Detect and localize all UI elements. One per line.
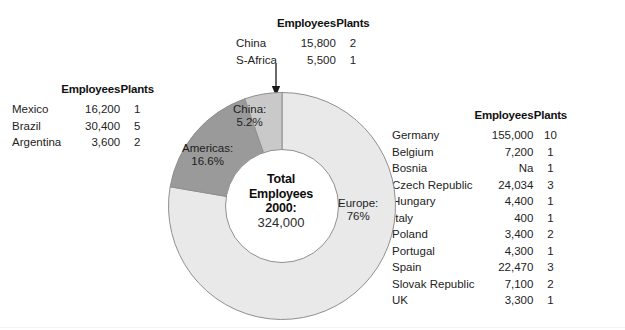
cell-region: Italy [392,210,474,227]
cell-employees: 3,600 [61,135,120,152]
table-header-row: Employees Plants [236,18,370,36]
cell-employees: 30,400 [61,118,120,135]
table-row: Italy4001 [392,210,567,227]
cell-plants: 1 [533,161,567,178]
table-header-row: Employees Plants [12,84,154,102]
table-body: Germany155,00010Belgium7,2001BosniaNa1Cz… [392,128,567,310]
column-header-plants: Plants [533,110,567,128]
cell-region: Spain [392,260,474,277]
center-total-value: 324,000 [216,216,346,231]
slice-label-china-name: China: [233,103,266,116]
cell-employees: 15,800 [277,36,336,53]
cell-employees: Na [474,161,533,178]
table-row: Belgium7,2001 [392,144,567,161]
cell-plants: 3 [533,177,567,194]
table-row: Brazil30,4005 [12,118,154,135]
cell-plants: 2 [120,135,154,152]
cell-employees: 3,300 [474,293,533,310]
slice-label-americas-value: 16.6% [182,155,233,168]
cell-employees: 4,300 [474,243,533,260]
cell-region: Poland [392,227,474,244]
cell-plants: 2 [533,276,567,293]
slice-label-americas: Americas: 16.6% [182,142,233,167]
cell-plants: 1 [533,243,567,260]
donut-center-label: Total Employees 2000: 324,000 [216,172,346,230]
table-europe: Employees Plants Germany155,00010Belgium… [392,110,567,309]
table-row: BosniaNa1 [392,161,567,178]
table-body: China15,8002S-Africa5,5001 [236,36,370,69]
table-row: Czech Republic24,0343 [392,177,567,194]
table-header-row: Employees Plants [392,110,567,128]
cell-plants: 1 [336,52,370,69]
table-body: Mexico16,2001Brazil30,4005Argentina3,600… [12,102,154,152]
cell-region: Portugal [392,243,474,260]
cell-region: UK [392,293,474,310]
table-asia-africa: Employees Plants China15,8002S-Africa5,5… [236,18,370,69]
scan-artifact-line [0,327,625,328]
table-row: China15,8002 [236,36,370,53]
slice-label-china-value: 5.2% [233,116,266,129]
table-row: Slovak Republic7,1002 [392,276,567,293]
table: Employees Plants Mexico16,2001Brazil30,4… [12,84,154,151]
column-header-employees: Employees [277,18,336,36]
column-header-region [392,110,474,128]
cell-plants: 5 [120,118,154,135]
cell-region: Mexico [12,102,61,119]
cell-region: Hungary [392,194,474,211]
cell-employees: 4,400 [474,194,533,211]
column-header-region [12,84,61,102]
column-header-region [236,18,277,36]
column-header-employees: Employees [474,110,533,128]
cell-employees: 155,000 [474,128,533,145]
column-header-plants: Plants [120,84,154,102]
cell-employees: 7,100 [474,276,533,293]
cell-region: China [236,36,277,53]
table-row: Poland3,4002 [392,227,567,244]
table-row: S-Africa5,5001 [236,52,370,69]
table-americas: Employees Plants Mexico16,2001Brazil30,4… [12,84,154,151]
cell-plants: 2 [533,227,567,244]
table-row: Argentina3,6002 [12,135,154,152]
center-line-3: 2000: [216,201,346,216]
cell-plants: 1 [533,293,567,310]
cell-plants: 1 [120,102,154,119]
table-row: UK3,3001 [392,293,567,310]
cell-plants: 1 [533,194,567,211]
cell-region: Czech Republic [392,177,474,194]
cell-region: Brazil [12,118,61,135]
column-header-employees: Employees [61,84,120,102]
cell-region: Argentina [12,135,61,152]
cell-plants: 3 [533,260,567,277]
cell-employees: 3,400 [474,227,533,244]
center-line-1: Total [216,172,346,187]
cell-employees: 400 [474,210,533,227]
table-row: Germany155,00010 [392,128,567,145]
slice-label-china: China: 5.2% [233,103,266,128]
cell-employees: 24,034 [474,177,533,194]
cell-plants: 1 [533,144,567,161]
table: Employees Plants Germany155,00010Belgium… [392,110,567,309]
cell-plants: 2 [336,36,370,53]
figure-root: Employees Plants China15,8002S-Africa5,5… [0,0,625,330]
cell-employees: 22,470 [474,260,533,277]
cell-plants: 1 [533,210,567,227]
cell-region: Slovak Republic [392,276,474,293]
cell-region: Bosnia [392,161,474,178]
slice-label-americas-name: Americas: [182,142,233,155]
table-row: Spain22,4703 [392,260,567,277]
cell-region: Belgium [392,144,474,161]
table-row: Portugal4,3001 [392,243,567,260]
cell-employees: 5,500 [277,52,336,69]
cell-employees: 7,200 [474,144,533,161]
table-row: Hungary4,4001 [392,194,567,211]
center-line-2: Employees [216,187,346,202]
table: Employees Plants China15,8002S-Africa5,5… [236,18,370,69]
cell-region: Germany [392,128,474,145]
table-row: Mexico16,2001 [12,102,154,119]
cell-employees: 16,200 [61,102,120,119]
column-header-plants: Plants [336,18,370,36]
cell-plants: 10 [533,128,567,145]
